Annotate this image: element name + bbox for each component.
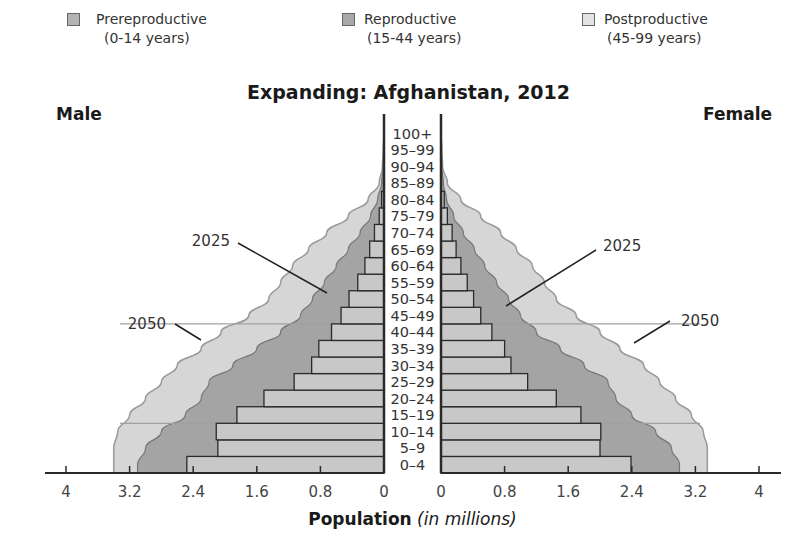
x-tick-label: 1.6 (245, 483, 269, 501)
male-bar (358, 274, 384, 291)
age-label: 90–94 (390, 159, 434, 175)
male-bar (187, 456, 384, 473)
label-2050-female: 2050 (681, 312, 719, 330)
age-label: 85–89 (390, 175, 434, 191)
female-bar (441, 423, 601, 440)
female-bar (441, 241, 456, 258)
age-label: 0–4 (400, 457, 426, 473)
x-tick-label: 4 (754, 483, 764, 501)
age-label: 95–99 (390, 142, 434, 158)
female-bar (441, 390, 556, 407)
x-axis-label-main: Population (308, 509, 411, 529)
male-bar (332, 324, 384, 341)
x-tick-label: 0.8 (308, 483, 332, 501)
x-tick-label: 3.2 (683, 483, 707, 501)
female-bar (441, 340, 505, 357)
age-label: 65–69 (390, 242, 434, 258)
age-label: 35–39 (390, 341, 434, 357)
age-label: 10–14 (390, 424, 434, 440)
female-bar (441, 258, 461, 275)
female-bar (441, 374, 528, 391)
age-label: 100+ (393, 126, 433, 142)
population-pyramid: 43.22.41.60.8000.81.62.43.24 0–45–910–14… (0, 0, 811, 555)
male-bar (237, 407, 384, 424)
age-label: 15–19 (390, 407, 434, 423)
male-bar (216, 423, 384, 440)
female-bar (441, 456, 631, 473)
x-tick-label: 4 (61, 483, 71, 501)
male-bar (365, 258, 384, 275)
female-bar (441, 324, 492, 341)
female-bar (441, 291, 474, 308)
age-label: 25–29 (390, 374, 434, 390)
age-label: 70–74 (390, 225, 434, 241)
female-bar (441, 440, 600, 457)
male-bar (319, 340, 384, 357)
age-label: 45–49 (390, 308, 434, 324)
x-tick-label: 2.4 (181, 483, 205, 501)
label-2025-male: 2025 (192, 232, 230, 250)
leader-2050-male (175, 324, 201, 340)
label-2050-male: 2050 (128, 315, 166, 333)
age-label: 75–79 (390, 208, 434, 224)
x-tick-label: 0 (436, 483, 446, 501)
male-bar (349, 291, 384, 308)
male-bar (374, 224, 384, 241)
age-label: 55–59 (390, 275, 434, 291)
age-labels: 0–45–910–1415–1920–2425–2930–3435–3940–4… (390, 126, 434, 473)
x-tick-label: 0.8 (493, 483, 517, 501)
x-tick-label: 2.4 (620, 483, 644, 501)
x-axis-label: Population (in millions) (0, 509, 811, 529)
male-bar (341, 307, 384, 324)
age-label: 30–34 (390, 358, 434, 374)
female-bar (441, 274, 467, 291)
male-bar (264, 390, 384, 407)
age-label: 50–54 (390, 291, 434, 307)
age-label: 40–44 (390, 324, 434, 340)
age-label: 20–24 (390, 391, 434, 407)
female-bar (441, 407, 581, 424)
x-tick-label: 0 (379, 483, 389, 501)
male-bar (312, 357, 384, 374)
age-label: 5–9 (400, 440, 426, 456)
age-label: 60–64 (390, 258, 434, 274)
x-axis-label-unit: (in millions) (417, 509, 517, 529)
x-tick-label: 3.2 (118, 483, 142, 501)
female-bar (441, 307, 481, 324)
male-bar (370, 241, 384, 258)
x-tick-label: 1.6 (556, 483, 580, 501)
female-bar (441, 357, 511, 374)
male-bar (218, 440, 384, 457)
female-bar (441, 224, 452, 241)
age-label: 80–84 (390, 192, 434, 208)
male-bar (294, 374, 384, 391)
label-2025-female: 2025 (603, 237, 641, 255)
